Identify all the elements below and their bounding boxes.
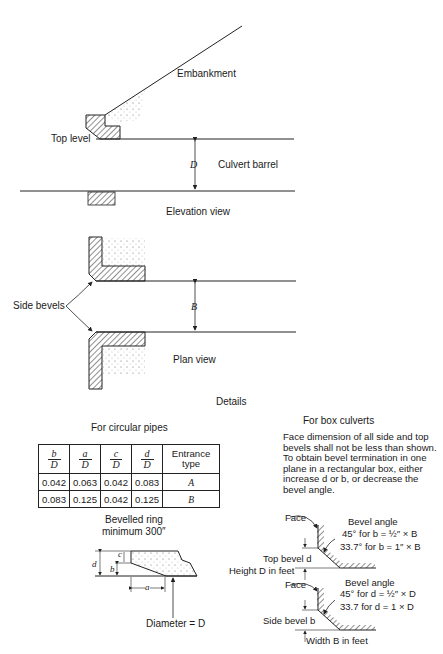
embankment-label: Embankment: [177, 69, 236, 79]
top-bevel-45-label: 45° for b = ½″ × B: [342, 529, 417, 539]
side-face-label: Face: [285, 580, 306, 590]
bevelled-ring-label: Bevelled ring: [105, 515, 163, 525]
diameter-label: Diameter = D: [146, 619, 205, 629]
cell: 0.125: [70, 491, 101, 508]
plan-view: [66, 237, 296, 389]
side-bevel-45-label: 45° for d = ½″ × D: [340, 589, 416, 599]
header-a-over-d: aD: [70, 445, 101, 474]
box-culverts-title: For box culverts: [303, 416, 374, 426]
top-bevel-33-label: 33.7° for b = 1″ × B: [340, 542, 421, 552]
culvert-diagram: [0, 0, 443, 654]
side-bevel-label: Side bevel b: [263, 616, 315, 626]
side-bevels-label: Side bevels: [13, 301, 65, 311]
plan-view-caption: Plan view: [173, 355, 216, 365]
dimension-b-label: B: [191, 302, 197, 312]
cell: 0.083: [39, 491, 70, 508]
culvert-barrel-label: Culvert barrel: [218, 160, 278, 170]
cell: 0.042: [39, 474, 70, 491]
dim-b-label: b: [110, 565, 115, 574]
cell: 0.042: [101, 474, 132, 491]
table-row: 0.083 0.125 0.042 0.125 B: [39, 491, 220, 508]
cell: B: [163, 491, 220, 508]
top-face-label: Face: [285, 513, 306, 523]
top-level-label: Top level: [51, 134, 90, 144]
width-label: Width B in feet: [306, 636, 368, 646]
dim-d-label: d: [92, 560, 97, 569]
header-c-over-d: cD: [101, 445, 132, 474]
cell: 0.125: [132, 491, 163, 508]
ratio-table: bD aD cD dD Entrance type 0.042 0.063 0.…: [38, 444, 220, 508]
header-d-over-d: dD: [132, 445, 163, 474]
top-bevel-label: Top bevel d: [263, 554, 312, 564]
elevation-view: [20, 26, 295, 205]
dim-a-label: a: [145, 583, 150, 592]
side-bevel-33-label: 33.7 for d = 1 × D: [340, 602, 414, 612]
circular-pipes-title: For circular pipes: [91, 423, 168, 433]
cell: 0.083: [132, 474, 163, 491]
side-bevel-angle-label: Bevel angle: [345, 578, 395, 588]
dim-c-label: c: [118, 550, 122, 559]
header-entrance-type: Entrance type: [163, 445, 220, 474]
header-b-over-d: bD: [39, 445, 70, 474]
cell: 0.042: [101, 491, 132, 508]
table-header-row: bD aD cD dD Entrance type: [39, 445, 220, 474]
cell: 0.063: [70, 474, 101, 491]
table-row: 0.042 0.063 0.042 0.083 A: [39, 474, 220, 491]
details-title: Details: [216, 397, 247, 407]
height-label: Height D in feet: [229, 566, 294, 576]
top-bevel-angle-label: Bevel angle: [348, 517, 398, 527]
box-culverts-note: Face dimension of all side and top bevel…: [283, 432, 443, 496]
cell: A: [163, 474, 220, 491]
minimum-label: minimum 300″: [102, 527, 166, 537]
dimension-d-label: D: [190, 160, 197, 170]
elevation-view-caption: Elevation view: [166, 207, 230, 217]
